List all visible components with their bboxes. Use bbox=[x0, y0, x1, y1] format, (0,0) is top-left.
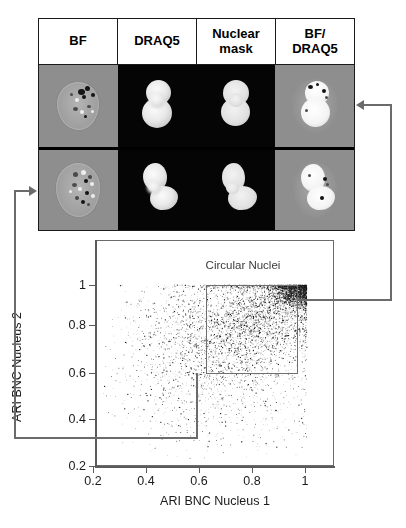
y-tick-0-8 bbox=[89, 325, 96, 326]
panel-cell-nuclear-mask-row2 bbox=[197, 150, 276, 230]
panel-header-nuclear-mask: Nuclear mask bbox=[197, 19, 276, 64]
y-axis-title: ARI BNC Nucleus 2 bbox=[10, 287, 24, 447]
panel-cell-bf-draq5-row2 bbox=[275, 150, 354, 230]
panel-header-nuclear-mask-line2: mask bbox=[212, 42, 260, 57]
panel-cell-bf-row2 bbox=[39, 150, 118, 230]
panel-row-circular-nuclei bbox=[39, 65, 354, 147]
panel-cell-bf-draq5-row1 bbox=[275, 65, 354, 147]
image-panel-grid: BF DRAQ5 Nuclear mask BF/ DRAQ5 bbox=[38, 18, 355, 231]
y-tick-label-0-4: 0.4 bbox=[52, 412, 86, 426]
x-tick-label-0-6: 0.6 bbox=[179, 474, 219, 488]
x-tick-0-6 bbox=[199, 466, 200, 473]
y-tick-0-6 bbox=[89, 373, 96, 374]
y-axis-line bbox=[95, 240, 97, 468]
bottom-connector-segment-h1 bbox=[14, 437, 198, 439]
panel-header-bf-draq5-line2: DRAQ5 bbox=[292, 42, 338, 57]
bottom-connector-arrowhead-icon bbox=[29, 186, 37, 196]
x-tick-0-4 bbox=[146, 466, 147, 473]
top-connector-arrowhead-icon bbox=[356, 100, 364, 110]
top-connector-segment-v bbox=[390, 104, 392, 301]
panel-header-bf-draq5-line1: BF/ bbox=[292, 27, 338, 42]
x-tick-0-2 bbox=[93, 466, 94, 473]
panel-header-bf: BF bbox=[39, 19, 118, 64]
panel-header-bf-line1: BF bbox=[69, 34, 86, 49]
panel-header-draq5: DRAQ5 bbox=[118, 19, 197, 64]
y-tick-label-0-6: 0.6 bbox=[52, 366, 86, 380]
x-axis-title: ARI BNC Nucleus 1 bbox=[95, 494, 335, 508]
gate-rect-circular-nuclei[interactable] bbox=[206, 285, 298, 374]
panel-row-noncircular-nuclei bbox=[39, 147, 354, 230]
panel-header-draq5-line1: DRAQ5 bbox=[134, 34, 180, 49]
x-tick-label-0-8: 0.8 bbox=[232, 474, 272, 488]
panel-cell-draq5-row2 bbox=[118, 150, 197, 230]
bottom-connector-segment-v2 bbox=[14, 190, 16, 439]
y-tick-label-1: 1 bbox=[52, 278, 86, 292]
panel-header-bf-draq5: BF/ DRAQ5 bbox=[276, 19, 354, 64]
x-tick-label-0-4: 0.4 bbox=[126, 474, 166, 488]
y-tick-1 bbox=[89, 285, 96, 286]
y-tick-0-4 bbox=[89, 419, 96, 420]
y-tick-label-0-2: 0.2 bbox=[52, 459, 86, 473]
x-tick-0-8 bbox=[252, 466, 253, 473]
x-tick-1 bbox=[305, 466, 306, 473]
top-connector-segment-h1 bbox=[298, 299, 392, 301]
panel-cell-draq5-row1 bbox=[118, 65, 197, 147]
x-tick-label-0-2: 0.2 bbox=[73, 474, 113, 488]
panel-header-nuclear-mask-line1: Nuclear bbox=[212, 27, 260, 42]
x-tick-label-1: 1 bbox=[285, 474, 325, 488]
gate-label-circular-nuclei: Circular Nuclei bbox=[178, 259, 308, 271]
panel-cell-bf-row1 bbox=[39, 65, 118, 147]
figure-root: BF DRAQ5 Nuclear mask BF/ DRAQ5 bbox=[0, 0, 406, 528]
x-axis-line bbox=[95, 466, 335, 468]
y-tick-label-0-8: 0.8 bbox=[52, 318, 86, 332]
bottom-connector-segment-v1 bbox=[196, 373, 198, 439]
panel-header-row: BF DRAQ5 Nuclear mask BF/ DRAQ5 bbox=[39, 19, 354, 65]
top-connector-segment-h2 bbox=[364, 104, 392, 106]
bottom-connector-segment-h2 bbox=[14, 190, 30, 192]
panel-cell-nuclear-mask-row1 bbox=[197, 65, 276, 147]
